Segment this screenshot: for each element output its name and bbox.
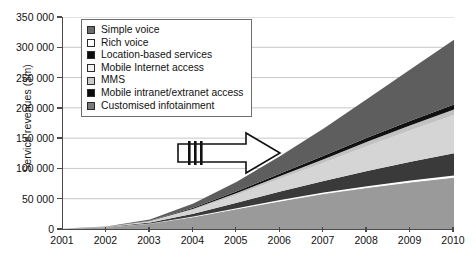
x-tick-label: 2005	[224, 234, 247, 246]
legend-swatch-icon	[87, 51, 95, 59]
x-tick-label: 2003	[137, 234, 160, 246]
arrow-shape	[178, 133, 280, 173]
y-tick-label: 250 000	[16, 72, 54, 84]
x-tick-mark	[365, 227, 366, 232]
growth-arrow-annotation	[176, 131, 284, 176]
arrow-tail-bar-1	[188, 141, 191, 165]
chart-legend: Simple voiceRich voiceLocation-based ser…	[81, 19, 252, 117]
y-tick-label: 300 000	[16, 41, 54, 53]
x-tick-label: 2004	[181, 234, 204, 246]
x-tick-mark	[105, 227, 106, 232]
x-tick-label: 2001	[50, 234, 73, 246]
y-tick-label: 100 000	[16, 162, 54, 174]
legend-swatch-icon	[87, 26, 95, 34]
x-axis-ticks: 2001200220032004200520062007200820092010	[0, 232, 476, 262]
x-tick-mark	[409, 227, 410, 232]
x-tick-label: 2009	[398, 234, 421, 246]
legend-item: Location-based services	[87, 49, 244, 62]
legend-swatch-icon	[87, 77, 95, 85]
legend-label: Rich voice	[101, 37, 149, 50]
legend-label: MMS	[101, 74, 125, 87]
legend-swatch-icon	[87, 89, 95, 97]
legend-item: Simple voice	[87, 24, 244, 37]
x-tick-label: 2006	[268, 234, 291, 246]
legend-item: Mobile intranet/extranet access	[87, 87, 244, 100]
legend-label: Location-based services	[101, 49, 212, 62]
arrow-tail-bar-2	[194, 141, 197, 165]
legend-label: Mobile intranet/extranet access	[101, 87, 244, 100]
arrow-tail-bar-3	[200, 141, 203, 165]
legend-item: Mobile Internet access	[87, 62, 244, 75]
legend-swatch-icon	[87, 39, 95, 47]
x-tick-mark	[452, 227, 453, 232]
x-tick-label: 2008	[354, 234, 377, 246]
y-tick-label: 50 000	[22, 193, 54, 205]
x-tick-label: 2010	[441, 234, 464, 246]
x-tick-mark	[148, 227, 149, 232]
legend-item: Customised infotainment	[87, 100, 244, 113]
x-tick-label: 2007	[311, 234, 334, 246]
y-axis-ticks: 050 000100 000150 000200 000250 000300 0…	[0, 0, 62, 265]
legend-swatch-icon	[87, 64, 95, 72]
legend-label: Customised infotainment	[101, 100, 214, 113]
y-tick-label: 350 000	[16, 11, 54, 23]
legend-label: Mobile Internet access	[101, 62, 204, 75]
x-tick-mark	[279, 227, 280, 232]
legend-item: Rich voice	[87, 37, 244, 50]
y-tick-label: 150 000	[16, 132, 54, 144]
chart-figure: Service revenues ($m) 050 000100 000150 …	[0, 0, 476, 265]
legend-item: MMS	[87, 74, 244, 87]
x-tick-label: 2002	[94, 234, 117, 246]
x-tick-mark	[322, 227, 323, 232]
x-tick-mark	[235, 227, 236, 232]
y-tick-label: 200 000	[16, 102, 54, 114]
legend-label: Simple voice	[101, 24, 159, 37]
legend-swatch-icon	[87, 102, 95, 110]
x-tick-mark	[192, 227, 193, 232]
